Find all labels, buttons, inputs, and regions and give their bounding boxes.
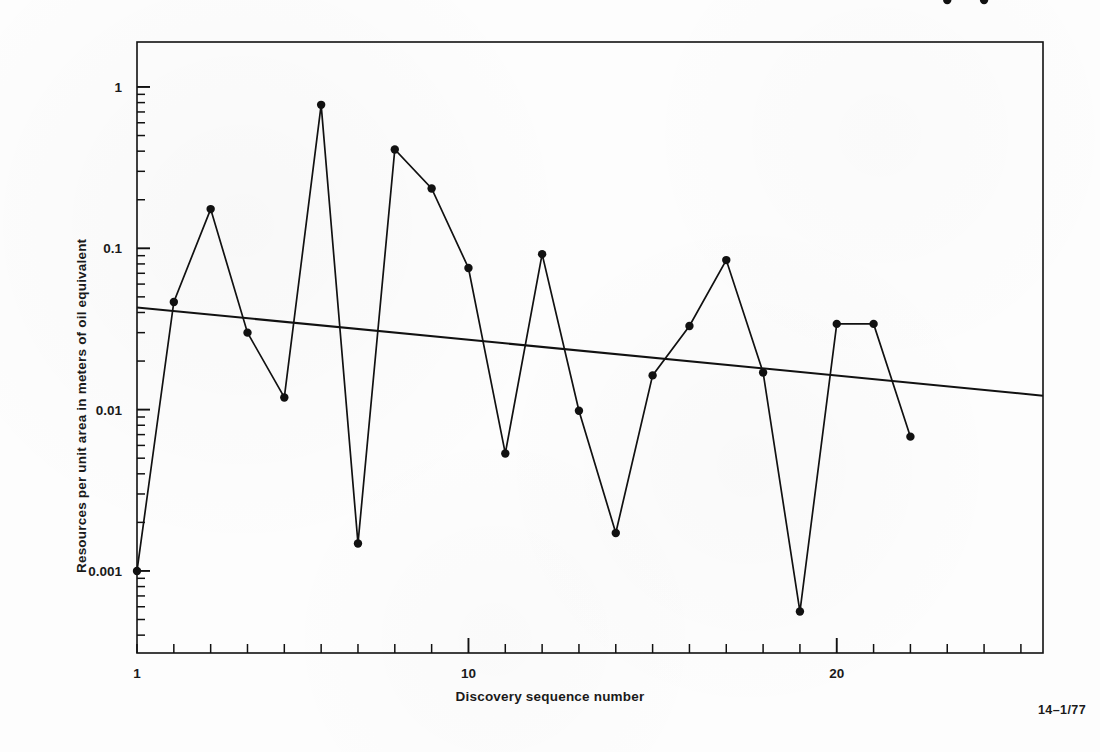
data-point-marker (833, 320, 841, 328)
x-tick-label: 20 (829, 666, 844, 681)
data-point-marker (980, 0, 988, 4)
data-series-line (137, 105, 910, 612)
data-point-marker (906, 432, 914, 440)
x-axis-ticks (137, 638, 1021, 653)
x-tick-label: 10 (461, 666, 476, 681)
data-point-marker (538, 250, 546, 258)
data-point-marker (317, 101, 325, 109)
data-point-marker (391, 145, 399, 153)
axis-frame (137, 42, 1043, 653)
data-point-markers (133, 0, 988, 616)
data-point-marker (464, 264, 472, 272)
data-point-marker (722, 256, 730, 264)
y-tick-label: 1 (40, 79, 122, 94)
data-point-marker (759, 368, 767, 376)
x-tick-label: 1 (133, 666, 141, 681)
x-axis-title: Discovery sequence number (0, 689, 1100, 704)
data-point-marker (206, 205, 214, 213)
data-point-marker (575, 406, 583, 414)
trend-line (137, 307, 1043, 395)
data-point-marker (501, 449, 509, 457)
data-point-marker (612, 529, 620, 537)
data-point-marker (943, 0, 951, 4)
data-point-marker (243, 328, 251, 336)
data-point-marker (133, 567, 141, 575)
figure-container: 10.10.010.00111020 Resources per unit ar… (0, 0, 1100, 752)
data-point-marker (354, 539, 362, 547)
data-point-marker (280, 393, 288, 401)
data-point-marker (648, 371, 656, 379)
y-axis-title: Resources per unit area in meters of oil… (74, 239, 89, 573)
figure-number-annotation: 14–1/77 (1038, 703, 1086, 717)
data-point-marker (796, 607, 804, 615)
data-point-marker (427, 184, 435, 192)
chart-plot-area (0, 0, 1100, 752)
data-point-marker (170, 298, 178, 306)
data-point-marker (685, 322, 693, 330)
data-point-marker (869, 320, 877, 328)
